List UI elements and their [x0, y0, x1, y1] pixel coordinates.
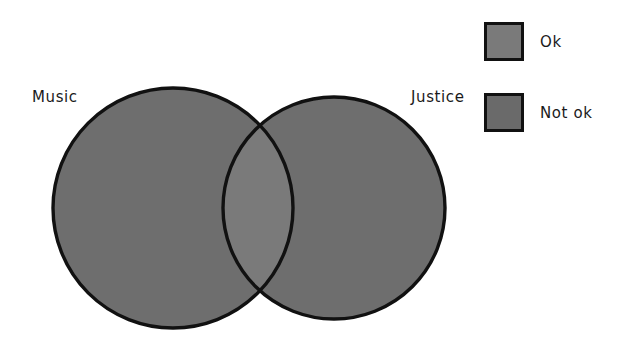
legend-label-ok: Ok [540, 33, 562, 51]
legend-item-ok: Ok [484, 22, 593, 61]
venn-label-music: Music [32, 88, 78, 106]
venn-label-justice: Justice [411, 88, 464, 106]
legend-item-not-ok: Not ok [484, 93, 593, 132]
legend: Ok Not ok [484, 22, 593, 132]
venn-diagram-canvas: Music Justice Ok Not ok [0, 0, 627, 339]
legend-label-not-ok: Not ok [540, 104, 593, 122]
legend-swatch-ok-icon [484, 22, 524, 61]
legend-swatch-not-ok-icon [484, 93, 524, 132]
